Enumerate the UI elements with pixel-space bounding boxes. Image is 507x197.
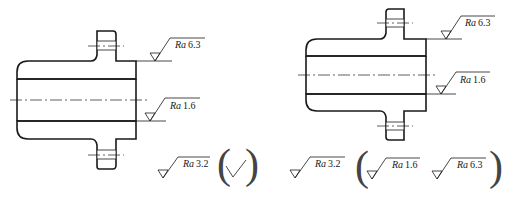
svg-text:Ra6.3: Ra6.3	[464, 17, 491, 28]
svg-text:Ra1.6: Ra1.6	[459, 74, 486, 85]
svg-text:Ra3.2: Ra3.2	[182, 158, 209, 169]
svg-text:(: (	[217, 141, 231, 188]
svg-text:Ra3.2: Ra3.2	[314, 158, 341, 169]
svg-text:(: (	[355, 143, 369, 190]
svg-text:Ra1.6: Ra1.6	[169, 100, 196, 111]
general-roughness-note-left: Ra3.2 ( )	[158, 141, 259, 188]
svg-text:Ra6.3: Ra6.3	[456, 159, 483, 170]
svg-text:Ra1.6: Ra1.6	[391, 159, 418, 170]
roughness-symbol-left-ra16: Ra1.6	[136, 98, 200, 121]
svg-text:): )	[489, 143, 503, 190]
svg-text:): )	[245, 141, 259, 188]
roughness-symbol-right-ra16: Ra1.6	[426, 72, 490, 94]
roughness-symbol-right-ra63: Ra6.3	[426, 16, 495, 39]
right-sleeve-section	[298, 9, 438, 140]
roughness-symbol-left-ra63: Ra6.3	[136, 38, 205, 61]
engineering-drawing: Ra6.3 Ra1.6 Ra3.2 ( )	[0, 0, 507, 197]
left-sleeve-section	[10, 31, 148, 169]
general-roughness-note-right: Ra3.2 ( Ra1.6 Ra6.3 )	[290, 143, 503, 190]
svg-text:Ra6.3: Ra6.3	[174, 39, 201, 50]
